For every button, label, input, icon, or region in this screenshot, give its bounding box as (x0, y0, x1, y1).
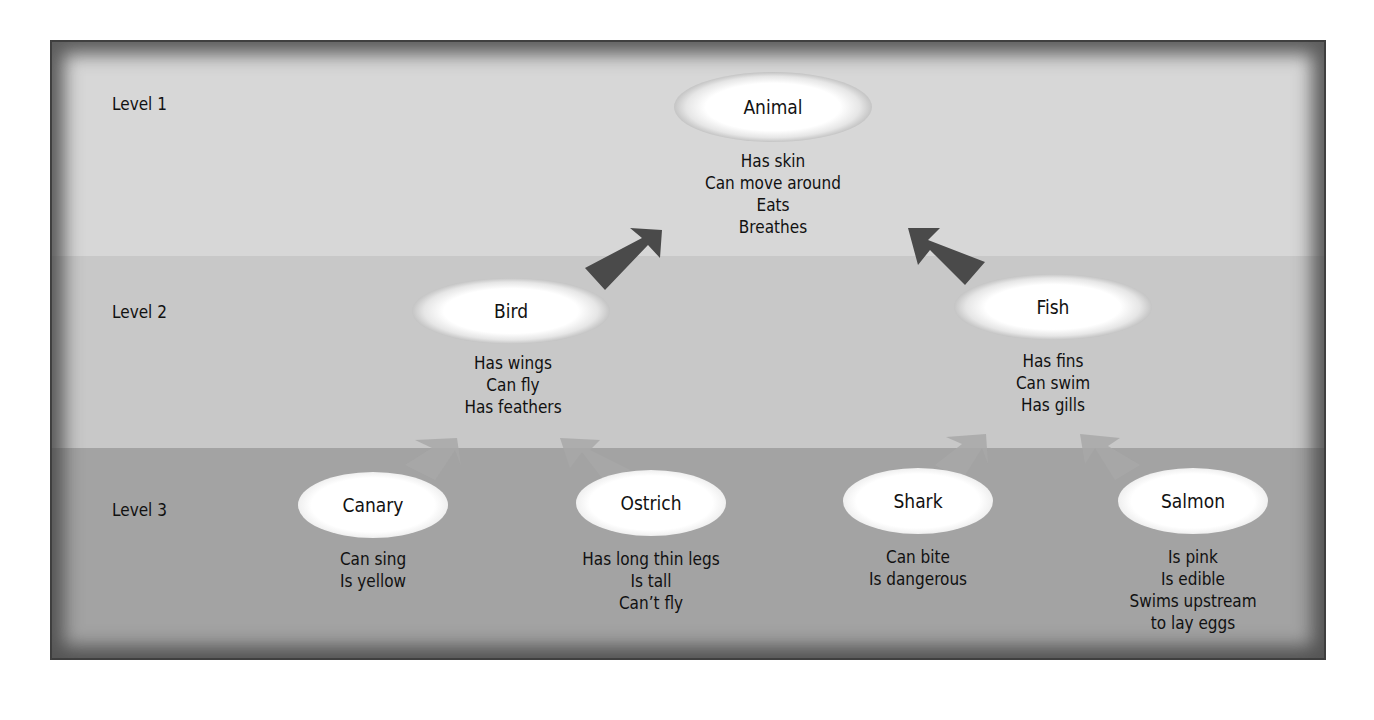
property: Is tall (582, 570, 719, 592)
property: Is edible (1129, 568, 1256, 590)
node-shark-properties: Can bite Is dangerous (869, 546, 967, 590)
node-shark-name: Shark (893, 490, 942, 512)
property: Has fins (1016, 350, 1090, 372)
hierarchy-diagram-frame: Level 1 Level 2 Level 3 Animal Has skin … (50, 40, 1326, 660)
level-1-label: Level 1 (112, 94, 167, 114)
property: Swims upstream (1129, 590, 1256, 612)
arrow-canary-to-bird-icon (405, 438, 461, 480)
property: Can swim (1016, 372, 1090, 394)
node-ostrich-properties: Has long thin legs Is tall Can’t fly (582, 548, 719, 614)
node-salmon-name: Salmon (1161, 490, 1225, 512)
node-bird: Bird (412, 278, 610, 344)
node-salmon-properties: Is pink Is edible Swims upstream to lay … (1129, 546, 1256, 634)
node-bird-name: Bird (494, 300, 528, 322)
property: Is dangerous (869, 568, 967, 590)
property: Can sing (340, 548, 406, 570)
property: Has feathers (464, 396, 561, 418)
property: Is yellow (340, 570, 406, 592)
property: Breathes (705, 216, 841, 238)
node-fish-name: Fish (1037, 296, 1070, 318)
node-fish-properties: Has fins Can swim Has gills (1016, 350, 1090, 416)
property: Can fly (464, 374, 561, 396)
node-canary-name: Canary (343, 494, 404, 516)
property: Eats (705, 194, 841, 216)
property: Has wings (464, 352, 561, 374)
property: Has skin (705, 150, 841, 172)
node-bird-properties: Has wings Can fly Has feathers (464, 352, 561, 418)
level-2-label: Level 2 (112, 302, 167, 322)
arrow-salmon-to-fish-icon (1080, 434, 1140, 480)
node-canary: Canary (298, 472, 448, 538)
property: Is pink (1129, 546, 1256, 568)
node-animal-properties: Has skin Can move around Eats Breathes (705, 150, 841, 238)
arrow-bird-to-animal-icon (585, 228, 662, 290)
node-animal: Animal (674, 72, 872, 142)
property: Has gills (1016, 394, 1090, 416)
property: Can move around (705, 172, 841, 194)
property: Can bite (869, 546, 967, 568)
arrow-fish-to-animal-icon (908, 228, 985, 285)
node-salmon: Salmon (1118, 468, 1268, 534)
level-3-label: Level 3 (112, 500, 167, 520)
node-canary-properties: Can sing Is yellow (340, 548, 406, 592)
node-ostrich: Ostrich (576, 470, 726, 536)
property: to lay eggs (1129, 612, 1256, 634)
node-shark: Shark (843, 468, 993, 534)
property: Has long thin legs (582, 548, 719, 570)
node-fish: Fish (954, 274, 1152, 340)
node-animal-name: Animal (743, 96, 802, 118)
property: Can’t fly (582, 592, 719, 614)
node-ostrich-name: Ostrich (620, 492, 681, 514)
